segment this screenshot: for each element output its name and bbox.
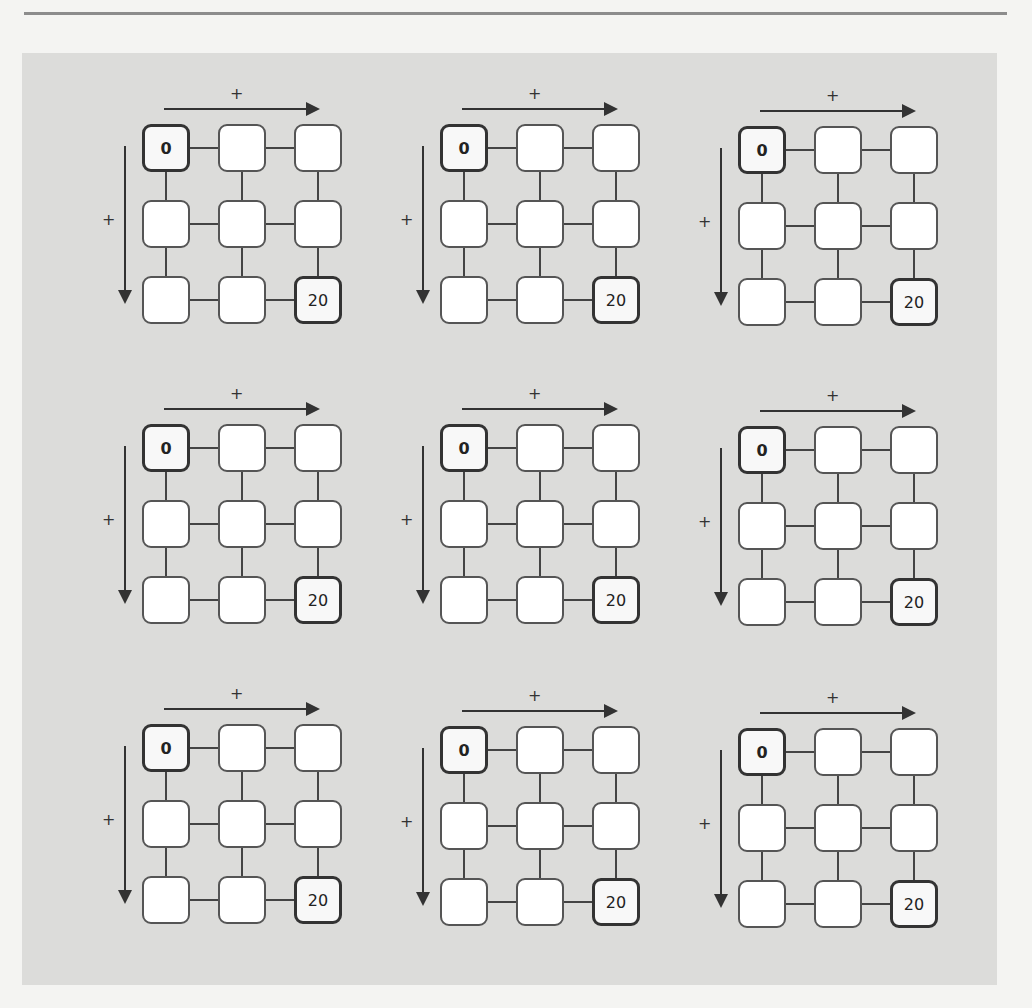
grid-connector [564,749,592,751]
empty-answer-cell[interactable] [440,276,488,324]
empty-answer-cell[interactable] [294,800,342,848]
grid-connector [564,447,592,449]
empty-answer-cell[interactable] [592,802,640,850]
empty-answer-cell[interactable] [738,202,786,250]
empty-answer-cell[interactable] [218,724,266,772]
empty-answer-cell[interactable] [516,124,564,172]
grid-connector [488,749,516,751]
grid-connector [564,599,592,601]
empty-answer-cell[interactable] [142,800,190,848]
number-grid-8: ++020 [398,690,678,960]
empty-answer-cell[interactable] [218,124,266,172]
empty-answer-cell[interactable] [142,576,190,624]
empty-answer-cell[interactable] [814,880,862,928]
empty-answer-cell[interactable] [516,424,564,472]
empty-answer-cell[interactable] [142,200,190,248]
empty-answer-cell[interactable] [516,576,564,624]
down-arrow-icon [720,448,722,594]
empty-answer-cell[interactable] [294,124,342,172]
grid-connector [837,474,839,502]
empty-answer-cell[interactable] [592,200,640,248]
grid-connector [190,147,218,149]
empty-answer-cell[interactable] [738,804,786,852]
empty-answer-cell[interactable] [218,500,266,548]
empty-answer-cell[interactable] [814,578,862,626]
empty-answer-cell[interactable] [814,502,862,550]
empty-answer-cell[interactable] [294,500,342,548]
empty-answer-cell[interactable] [890,804,938,852]
empty-answer-cell[interactable] [738,880,786,928]
empty-answer-cell[interactable] [218,800,266,848]
grid-connector [266,599,294,601]
grid-connector [463,774,465,802]
empty-answer-cell[interactable] [440,576,488,624]
grid-connector [539,548,541,576]
grid-connector [266,147,294,149]
number-grid-9: ++020 [696,692,976,962]
down-arrow-icon [124,746,126,892]
empty-answer-cell[interactable] [592,500,640,548]
empty-answer-cell[interactable] [440,802,488,850]
empty-answer-cell[interactable] [814,278,862,326]
right-arrow-icon [462,710,606,712]
empty-answer-cell[interactable] [516,726,564,774]
grid-connector [837,174,839,202]
number-grid-6: ++020 [696,390,976,660]
empty-answer-cell[interactable] [814,202,862,250]
empty-answer-cell[interactable] [592,424,640,472]
empty-answer-cell[interactable] [814,728,862,776]
grid-connector [761,250,763,278]
empty-answer-cell[interactable] [440,878,488,926]
empty-answer-cell[interactable] [814,126,862,174]
grid-connector [862,751,890,753]
empty-answer-cell[interactable] [440,200,488,248]
empty-answer-cell[interactable] [814,426,862,474]
grid-connector [190,599,218,601]
empty-answer-cell[interactable] [516,878,564,926]
empty-answer-cell[interactable] [738,278,786,326]
empty-answer-cell[interactable] [294,724,342,772]
horizontal-plus-label: + [826,690,839,706]
empty-answer-cell[interactable] [218,576,266,624]
empty-answer-cell[interactable] [294,200,342,248]
empty-answer-cell[interactable] [294,424,342,472]
empty-answer-cell[interactable] [890,426,938,474]
grid-connector [266,523,294,525]
empty-answer-cell[interactable] [142,500,190,548]
empty-answer-cell[interactable] [218,276,266,324]
vertical-plus-label: + [698,816,711,832]
horizontal-plus-label: + [230,86,243,102]
empty-answer-cell[interactable] [890,728,938,776]
start-cell: 0 [738,728,786,776]
grid-connector [190,523,218,525]
empty-answer-cell[interactable] [890,502,938,550]
vertical-plus-label: + [400,814,413,830]
empty-answer-cell[interactable] [890,126,938,174]
empty-answer-cell[interactable] [738,502,786,550]
empty-answer-cell[interactable] [516,802,564,850]
empty-answer-cell[interactable] [218,424,266,472]
end-cell: 20 [592,576,640,624]
end-cell: 20 [294,276,342,324]
grid-connector [165,172,167,200]
right-arrow-icon [462,408,606,410]
grid-connector [488,147,516,149]
empty-answer-cell[interactable] [218,876,266,924]
empty-answer-cell[interactable] [516,500,564,548]
empty-answer-cell[interactable] [440,500,488,548]
grid-connector [488,223,516,225]
empty-answer-cell[interactable] [814,804,862,852]
empty-answer-cell[interactable] [516,276,564,324]
empty-answer-cell[interactable] [592,124,640,172]
empty-answer-cell[interactable] [142,276,190,324]
empty-answer-cell[interactable] [142,876,190,924]
empty-answer-cell[interactable] [890,202,938,250]
grid-connector [317,472,319,500]
empty-answer-cell[interactable] [218,200,266,248]
grid-connector [190,747,218,749]
empty-answer-cell[interactable] [592,726,640,774]
empty-answer-cell[interactable] [738,578,786,626]
empty-answer-cell[interactable] [516,200,564,248]
grid-connector [190,223,218,225]
grid-connector [862,827,890,829]
